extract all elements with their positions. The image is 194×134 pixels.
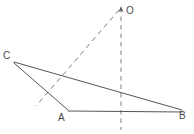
vertex-label-a: A (58, 113, 65, 123)
figure-svg (0, 0, 194, 134)
dashed-oblique-ray (36, 10, 119, 106)
vertex-label-b: B (179, 111, 186, 121)
geometry-figure: O C A B (0, 0, 194, 134)
segment-CB (14, 62, 182, 110)
segment-AB (68, 111, 182, 112)
vertex-label-c: C (3, 51, 10, 61)
vertex-label-o: O (126, 6, 134, 16)
